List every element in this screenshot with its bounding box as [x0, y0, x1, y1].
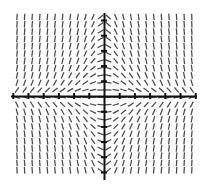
slope-field-canvas: [0, 0, 206, 188]
slope-field-plot: [0, 0, 206, 188]
